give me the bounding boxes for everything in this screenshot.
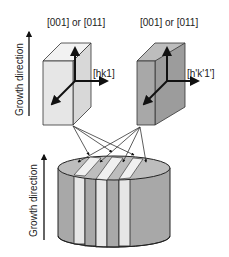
light-stripe — [96, 170, 107, 247]
crystal-block-right: [001] or [011] [h'k'1'] — [137, 17, 215, 125]
bicrystal-cylinder — [58, 156, 170, 247]
top-growth-direction-axis: Growth direction — [14, 32, 29, 116]
bottom-growth-direction-axis: Growth direction — [28, 155, 44, 240]
dark-stripe — [107, 170, 119, 247]
dark-stripe — [85, 170, 96, 246]
top-growth-direction-label: Growth direction — [14, 43, 25, 116]
light-stripe — [74, 170, 85, 244]
right-crystal-side-label: [h'k'1'] — [187, 68, 215, 79]
left-crystal-top-label: [001] or [011] — [47, 17, 105, 28]
bottom-growth-direction-label: Growth direction — [28, 164, 39, 237]
left-crystal-side-label: [hk1] — [93, 68, 115, 79]
right-crystal-top-label: [001] or [011] — [140, 17, 198, 28]
diagram-canvas: Growth direction [001] or [011] [hk1] [0… — [0, 0, 229, 257]
light-stripe — [119, 170, 130, 246]
crystal-block-left: [001] or [011] [hk1] — [43, 17, 115, 125]
